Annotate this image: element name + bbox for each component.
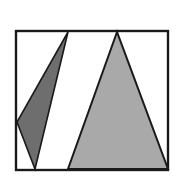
- figure-container: Two overlapping triangles inside a squar…: [0, 0, 176, 190]
- triangles-figure-svg: Two overlapping triangles inside a squar…: [0, 0, 176, 190]
